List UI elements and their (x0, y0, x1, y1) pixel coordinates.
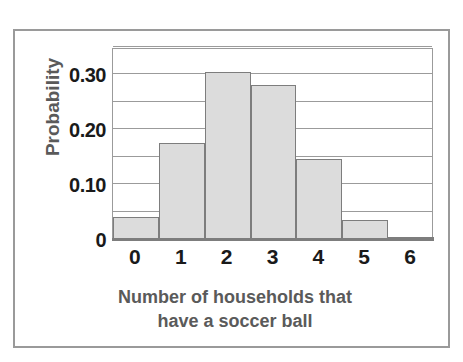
bars-layer (113, 49, 432, 239)
bar-1 (159, 143, 205, 239)
gridline (113, 46, 432, 47)
x-tick-label: 3 (250, 246, 296, 267)
plot-area (112, 48, 433, 240)
x-axis-baseline (112, 238, 434, 241)
x-axis-tick-labels: 0123456 (112, 246, 433, 276)
y-tick-label: 0.20 (44, 120, 106, 140)
x-tick-label: 0 (112, 246, 158, 267)
bar-2 (205, 72, 251, 239)
x-tick-label: 6 (387, 246, 433, 267)
probability-histogram: Probability 0.300.200.100 0123456 Number… (0, 0, 463, 362)
y-tick-label: 0.10 (44, 175, 106, 195)
y-axis-tick-labels: 0.300.200.100 (40, 48, 106, 240)
x-tick-label: 1 (158, 246, 204, 267)
x-axis-title-line: Number of households that (60, 285, 410, 309)
bar-5 (342, 220, 388, 239)
bar-0 (113, 217, 159, 239)
x-axis-title: Number of households thathave a soccer b… (60, 285, 410, 334)
y-tick-label: 0.30 (44, 65, 106, 85)
x-axis-title-line: have a soccer ball (60, 309, 410, 333)
bar-3 (251, 85, 297, 239)
x-tick-label: 5 (341, 246, 387, 267)
y-tick-label: 0 (44, 230, 106, 250)
x-tick-label: 4 (295, 246, 341, 267)
bar-4 (296, 159, 342, 239)
x-tick-label: 2 (204, 246, 250, 267)
